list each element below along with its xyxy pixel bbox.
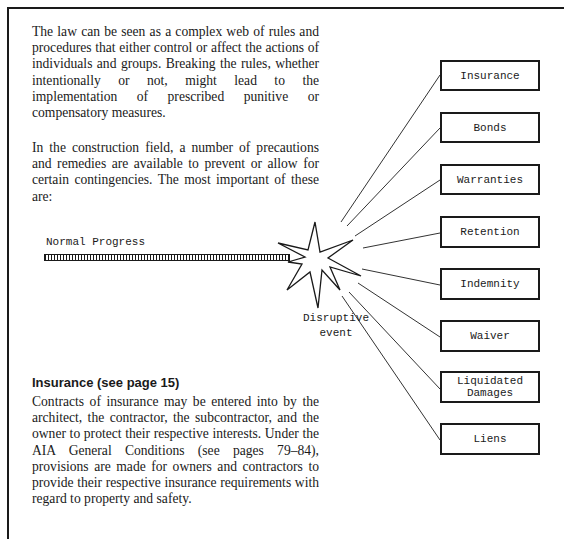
- remedy-box-insurance: Insurance: [440, 60, 540, 91]
- remedy-label: Retention: [460, 226, 519, 238]
- remedy-label: Indemnity: [460, 278, 519, 290]
- remedy-box-warranties: Warranties: [440, 164, 540, 195]
- remedy-box-waiver: Waiver: [440, 320, 540, 352]
- normal-progress-label: Normal Progress: [46, 236, 145, 248]
- page-frame-left-rule: [7, 7, 9, 539]
- remedy-box-liquidated-damages: Liquidated Damages: [440, 371, 540, 403]
- remedy-label: Warranties: [457, 174, 523, 186]
- remedy-box-indemnity: Indemnity: [440, 268, 540, 300]
- intro-paragraph-1: The law can be seen as a complex web of …: [32, 24, 319, 121]
- remedy-box-retention: Retention: [440, 216, 540, 248]
- remedy-label: Waiver: [470, 330, 510, 342]
- normal-progress-bar: [44, 254, 290, 261]
- disruptive-event-label: Disruptive event: [296, 311, 376, 341]
- remedy-label: Liens: [473, 433, 506, 445]
- page-frame-top-rule: [7, 7, 564, 9]
- disruptive-event-label-line2: event: [296, 326, 376, 341]
- remedy-label: Liquidated Damages: [457, 375, 523, 399]
- intro-paragraph-2: In the construction field, a number of p…: [32, 140, 319, 205]
- remedy-label: Bonds: [473, 122, 506, 134]
- remedy-box-bonds: Bonds: [440, 112, 540, 143]
- section-heading-insurance: Insurance (see page 15): [32, 375, 179, 390]
- insurance-paragraph: Contracts of insurance may be entered in…: [32, 394, 319, 507]
- connector-lines: [341, 75, 440, 440]
- remedy-label: Insurance: [460, 70, 519, 82]
- starburst-icon: [278, 222, 361, 308]
- remedy-box-liens: Liens: [440, 423, 540, 455]
- disruptive-event-label-line1: Disruptive: [296, 311, 376, 326]
